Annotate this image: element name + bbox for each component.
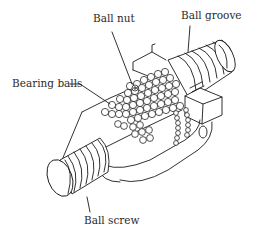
bearing-balls <box>101 68 190 145</box>
ball-screw-diagram: Ball nut Ball groove Bearing balls Ball … <box>0 0 257 240</box>
leader-ball-groove <box>188 26 190 52</box>
leader-ball-screw <box>87 197 90 212</box>
label-ball-screw: Ball screw <box>84 215 140 226</box>
screw-shaft-left <box>42 138 109 200</box>
label-bearing-balls: Bearing balls <box>12 78 82 89</box>
label-ball-nut: Ball nut <box>93 13 135 24</box>
ball-screw-illustration <box>0 0 257 240</box>
label-ball-groove: Ball groove <box>181 10 242 21</box>
leader-ball-nut <box>112 32 132 84</box>
